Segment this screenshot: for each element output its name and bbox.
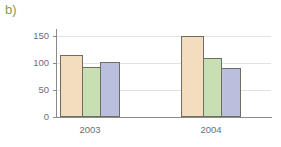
gridline-100 xyxy=(57,63,271,64)
plot-area xyxy=(57,30,271,117)
bar-2003-series-2 xyxy=(82,67,101,117)
y-tick-label-50: 50 xyxy=(9,85,49,95)
bar-2003-series-1 xyxy=(60,55,83,117)
y-tick-label-0: 0 xyxy=(9,112,49,122)
x-tick-label-2004: 2004 xyxy=(181,124,241,135)
x-axis-line xyxy=(56,117,272,118)
y-tick-mark-100 xyxy=(53,63,56,64)
y-tick-mark-0 xyxy=(53,117,56,118)
gridline-150 xyxy=(57,36,271,37)
y-tick-label-150: 150 xyxy=(9,31,49,41)
y-axis-line xyxy=(56,29,57,118)
bar-2003-series-3 xyxy=(100,62,120,117)
bar-2004-series-1 xyxy=(181,36,204,117)
x-tick-label-2003: 2003 xyxy=(60,124,120,135)
bar-2004-series-2 xyxy=(203,58,222,117)
y-tick-mark-50 xyxy=(53,90,56,91)
panel-label: b) xyxy=(5,2,17,17)
bar-chart-figure: b) 150 100 50 0 2003 2004 xyxy=(0,0,281,147)
y-tick-label-100: 100 xyxy=(9,58,49,68)
bar-2004-series-3 xyxy=(221,68,241,117)
y-tick-mark-150 xyxy=(53,36,56,37)
